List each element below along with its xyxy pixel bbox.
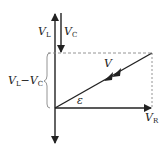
- epsilon-label: ε: [77, 94, 83, 107]
- brace-icon: [44, 53, 50, 108]
- vc-label: VC: [64, 25, 77, 39]
- v-label: V: [104, 57, 113, 70]
- vr-label: VR: [145, 111, 159, 125]
- phasor-diagram: VL VC V VR ε VL−VC: [0, 0, 168, 153]
- vl-label: VL: [38, 25, 51, 39]
- vl-minus-vc-label: VL−VC: [8, 74, 43, 88]
